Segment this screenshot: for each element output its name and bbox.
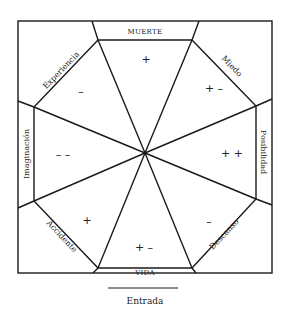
sign-top-right: + – [205, 82, 223, 95]
band-edge [192, 268, 196, 273]
band-edge [192, 21, 199, 40]
entrance-label: Entrada [127, 296, 164, 306]
sign-top: + [141, 53, 150, 66]
sign-right: + + [221, 147, 243, 160]
diagonal-label-top-right: Miedo [220, 54, 244, 79]
sign-bottom-right: – [206, 215, 212, 228]
band-label-bottom: VIDA [134, 269, 155, 277]
band-label-left: Imaginación [22, 129, 31, 179]
band-edge [18, 101, 34, 107]
sign-bottom: + – [135, 241, 153, 254]
band-edge [92, 21, 98, 40]
diagonal-label-bottom-right: Descanso [208, 217, 241, 251]
band-edge [256, 99, 272, 106]
band-edge [18, 201, 34, 208]
wheel-diagram: MUERTE VIDA Imaginación Posibilidad Expe… [0, 0, 287, 310]
band-label-right: Posibilidad [259, 130, 268, 174]
band-edge [93, 268, 98, 273]
diagonal-label-bottom-left: Accidente [44, 218, 79, 255]
sign-bottom-left: + [82, 214, 91, 227]
band-edge [256, 199, 272, 205]
band-label-top: MUERTE [128, 28, 163, 36]
sign-top-left: – [78, 85, 84, 98]
sign-left: – – [56, 148, 71, 161]
diagonal-label-top-left: Experiencia [41, 50, 81, 91]
